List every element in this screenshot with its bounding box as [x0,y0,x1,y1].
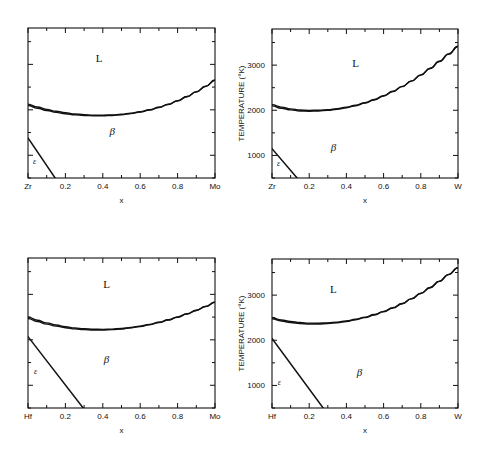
x-tick-label: 0.2 [60,182,72,191]
x-tick-label: 0.6 [135,182,147,191]
phase-label-epsilon: ε [34,367,38,376]
x-tick-label: Zr [268,182,276,191]
panel-hf-w: LβεHf0.20.40.60.8Wx100020003000TEMPERATU… [0,0,483,460]
y-tick-label: 3000 [247,291,265,300]
phase-label-liquid: L [103,278,110,290]
x-tick-label: 0.2 [60,412,72,421]
curve-liquidus [28,80,215,115]
plot-frame [28,28,215,178]
curve-solidus [28,302,215,330]
y-axis-title: TEMPERATURE (°K) [237,65,246,141]
x-axis-title: x [120,426,124,435]
panel-zr-mo: LβεZr0.20.40.60.8Mox [0,0,483,460]
phase-label-beta: β [108,125,115,137]
x-tick-label: Hf [24,412,33,421]
phase-label-liquid: L [96,52,103,64]
x-tick-label: Zr [24,182,32,191]
y-tick-label: 3000 [247,61,265,70]
x-tick-label: Mo [209,412,221,421]
x-tick-label: Hf [268,412,277,421]
y-tick-label: 2000 [247,106,265,115]
x-tick-label: 0.4 [97,412,109,421]
x-tick-label: W [454,412,462,421]
phase-label-liquid: L [352,57,359,69]
plot-frame [272,259,458,408]
x-tick-label: Mo [209,182,221,191]
phase-label-liquid: L [330,283,337,295]
x-tick-label: 0.6 [135,412,147,421]
phase-diagram-figure: LβεZr0.20.40.60.8MoxLβεZr0.20.40.60.8Wx1… [0,0,483,460]
x-axis-title: x [363,426,367,435]
y-tick-label: 2000 [247,336,265,345]
phase-label-beta: β [356,366,363,378]
phase-label-epsilon: ε [278,378,282,387]
curve-liquidus [272,46,458,110]
y-tick-label: 1000 [247,381,265,390]
x-tick-label: 0.6 [378,182,390,191]
panel-hf-mo: LβεHf0.20.40.60.8Mox [0,0,483,460]
x-tick-label: 0.6 [378,412,390,421]
x-axis-title: x [363,196,367,205]
curve-solidus [28,80,215,116]
phase-label-beta: β [103,353,110,365]
x-tick-label: 0.8 [415,182,427,191]
x-tick-label: W [454,182,462,191]
phase-label-epsilon: ε [33,157,37,166]
y-axis-title: TEMPERATURE (°K) [237,295,246,371]
curve-liquidus [272,268,458,324]
x-tick-label: 0.2 [304,412,316,421]
x-tick-label: 0.4 [341,182,353,191]
y-tick-label: 1000 [247,151,265,160]
curve-liquidus [28,302,215,329]
phase-label-epsilon: ε [277,159,281,168]
x-tick-label: 0.4 [97,182,109,191]
x-tick-label: 0.8 [415,412,427,421]
x-axis-title: x [120,196,124,205]
phase-label-beta: β [330,141,337,153]
x-tick-label: 0.8 [172,412,184,421]
panel-zr-w: LβεZr0.20.40.60.8Wx100020003000TEMPERATU… [0,0,483,460]
curve-solidus [272,268,458,324]
x-tick-label: 0.8 [172,182,184,191]
curve-solidus [272,46,458,111]
curve-epsilon-beta-boundary [272,338,323,408]
x-tick-label: 0.2 [304,182,316,191]
curve-epsilon-beta-boundary [28,337,83,408]
x-tick-label: 0.4 [341,412,353,421]
plot-frame [28,258,215,408]
plot-frame [272,29,458,178]
curve-epsilon-beta-boundary [28,138,55,178]
curve-epsilon-beta-boundary [272,149,297,178]
